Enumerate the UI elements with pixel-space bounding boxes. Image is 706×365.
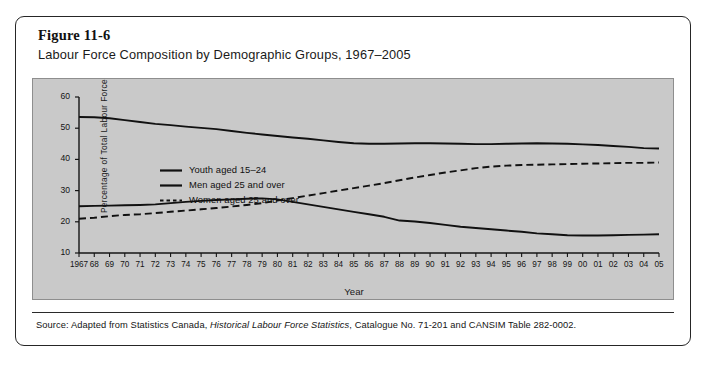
x-tick-label: 99 — [559, 260, 575, 269]
legend-label: Men aged 25 and over — [189, 179, 285, 190]
x-tick-label: 03 — [620, 260, 636, 269]
source-divider — [32, 312, 674, 313]
legend-swatch-dashed — [160, 193, 182, 206]
x-tick-label: 04 — [636, 260, 652, 269]
x-tick-label: 94 — [483, 260, 499, 269]
x-tick-label: 01 — [590, 260, 606, 269]
x-tick-label: 75 — [193, 260, 209, 269]
y-tick-label: 40 — [48, 153, 70, 163]
x-tick-label: 02 — [605, 260, 621, 269]
x-tick-label: 71 — [132, 260, 148, 269]
y-tick-label: 30 — [48, 185, 70, 195]
x-tick-label: 89 — [407, 260, 423, 269]
y-tick-label: 50 — [48, 122, 70, 132]
x-tick-label: 78 — [239, 260, 255, 269]
x-tick-label: 93 — [468, 260, 484, 269]
legend-item: Youth aged 15–24 — [160, 163, 299, 176]
figure-header: Figure 11-6 Labour Force Composition by … — [38, 27, 411, 63]
x-tick-label: 86 — [361, 260, 377, 269]
x-tick-label: 90 — [422, 260, 438, 269]
x-tick-label: 97 — [529, 260, 545, 269]
legend-item: Women aged 25 and over — [160, 193, 299, 206]
x-tick-label: 00 — [575, 260, 591, 269]
figure-frame: Figure 11-6 Labour Force Composition by … — [15, 16, 691, 346]
x-tick-label: 98 — [544, 260, 560, 269]
figure-number: Figure 11-6 — [38, 27, 411, 44]
legend-swatch-solid — [160, 178, 182, 191]
figure-title: Labour Force Composition by Demographic … — [38, 46, 411, 63]
y-tick-label: 20 — [48, 216, 70, 226]
x-tick-label: 69 — [102, 260, 118, 269]
y-tick-label: 10 — [48, 247, 70, 257]
x-tick-label: 77 — [224, 260, 240, 269]
legend-swatch-solid — [160, 163, 182, 176]
x-tick-label: 76 — [208, 260, 224, 269]
x-tick-label: 91 — [437, 260, 453, 269]
x-tick-label: 80 — [269, 260, 285, 269]
x-tick-label: 79 — [254, 260, 270, 269]
x-tick-label: 88 — [392, 260, 408, 269]
x-axis-title: Year — [33, 286, 675, 297]
legend-item: Men aged 25 and over — [160, 178, 299, 191]
x-tick-label: 72 — [147, 260, 163, 269]
x-tick-label: 96 — [514, 260, 530, 269]
x-tick-label: 73 — [163, 260, 179, 269]
x-tick-label: 87 — [376, 260, 392, 269]
chart-legend: Youth aged 15–24Men aged 25 and overWome… — [160, 163, 299, 208]
source-publication-title: Historical Labour Force Statistics — [210, 320, 349, 330]
x-tick-label: 95 — [498, 260, 514, 269]
x-tick-label: 68 — [86, 260, 102, 269]
x-tick-label: 81 — [285, 260, 301, 269]
x-tick-label: 85 — [346, 260, 362, 269]
x-tick-label: 92 — [453, 260, 469, 269]
x-tick-label: 74 — [178, 260, 194, 269]
source-note: Source: Adapted from Statistics Canada, … — [36, 320, 666, 330]
y-tick-label: 60 — [48, 91, 70, 101]
x-tick-label: 84 — [330, 260, 346, 269]
series-line-1 — [79, 117, 659, 149]
legend-label: Women aged 25 and over — [189, 194, 299, 205]
y-axis-title: Percentage of Total Labour Force — [99, 71, 109, 221]
chart-plot-panel: Percentage of Total Labour Force Year Yo… — [32, 78, 674, 300]
x-tick-label: 70 — [117, 260, 133, 269]
legend-label: Youth aged 15–24 — [189, 164, 266, 175]
x-tick-label: 83 — [315, 260, 331, 269]
x-tick-label: 05 — [651, 260, 667, 269]
x-tick-label: 82 — [300, 260, 316, 269]
